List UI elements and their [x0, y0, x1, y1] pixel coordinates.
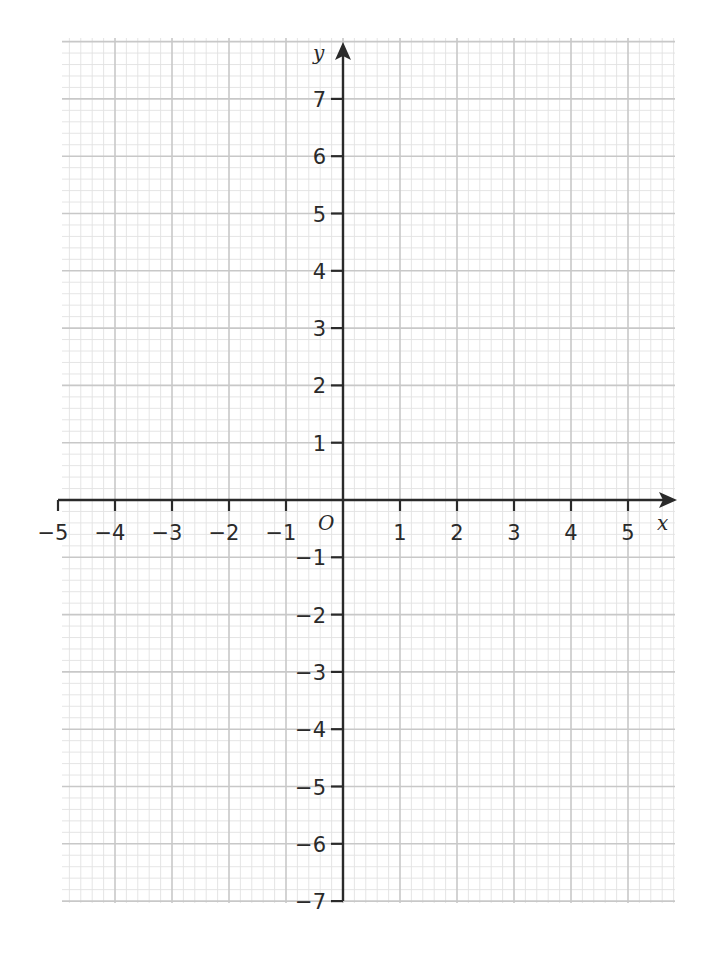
axes [58, 42, 677, 901]
y-tick-label: −1 [295, 546, 326, 570]
y-tick-label: −4 [295, 718, 326, 742]
x-axis-label: x [657, 511, 668, 535]
y-tick-label: −2 [295, 604, 326, 628]
y-tick-label: −3 [295, 661, 326, 685]
minor-grid-lines [62, 38, 675, 903]
y-tick-label: −5 [295, 776, 326, 800]
x-tick-label: 2 [450, 521, 463, 545]
y-axis-label: y [312, 41, 325, 65]
x-tick-label: −5 [38, 521, 69, 545]
y-tick-label: 4 [313, 260, 326, 284]
x-tick-label: −1 [266, 521, 297, 545]
y-tick-label: 3 [313, 317, 326, 341]
x-tick-label: 3 [507, 521, 520, 545]
y-tick-label: 2 [313, 374, 326, 398]
x-tick-label: −2 [209, 521, 240, 545]
y-tick-label: 6 [313, 145, 326, 169]
x-tick-label: −4 [95, 521, 126, 545]
x-tick-label: 4 [564, 521, 577, 545]
origin-label: O [318, 511, 334, 535]
y-tick-label: −6 [295, 833, 326, 857]
x-tick-label: 5 [621, 521, 634, 545]
y-tick-label: 1 [313, 432, 326, 456]
y-tick-label: 7 [313, 88, 326, 112]
x-tick-label: 1 [393, 521, 406, 545]
x-tick-label: −3 [152, 521, 183, 545]
coordinate-grid-chart: −5−4−3−2−1123457654321−1−2−3−4−5−6−7 x y… [0, 0, 703, 964]
y-tick-label: 5 [313, 203, 326, 227]
y-tick-label: −7 [295, 890, 326, 914]
